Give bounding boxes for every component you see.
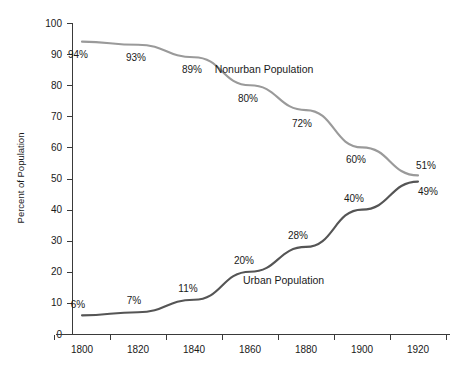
- data-label-nonurban-1920: 51%: [416, 160, 436, 171]
- x-tick-label-1860: 1860: [239, 344, 262, 355]
- data-label-nonurban-1900: 60%: [346, 154, 366, 165]
- x-tick-label-1840: 1840: [183, 344, 206, 355]
- data-label-urban-1920: 49%: [418, 186, 438, 197]
- y-tick-label-10: 10: [51, 297, 63, 308]
- x-axis-tick-labels: 1800182018401860188019001920: [71, 344, 430, 355]
- y-axis: 0102030405060708090100 Percent of Popula…: [15, 18, 73, 340]
- y-axis-tick-labels: 0102030405060708090100: [45, 18, 62, 340]
- data-label-nonurban-1800: 94%: [68, 49, 88, 60]
- x-tick-label-1800: 1800: [71, 344, 94, 355]
- data-label-nonurban-1820: 93%: [126, 52, 146, 63]
- data-label-urban-1880: 28%: [288, 230, 308, 241]
- y-tick-label-70: 70: [51, 111, 63, 122]
- population-line-chart: 0102030405060708090100 Percent of Popula…: [0, 0, 470, 379]
- x-tick-label-1880: 1880: [295, 344, 318, 355]
- x-axis: 1800182018401860188019001920: [54, 335, 450, 356]
- y-tick-label-20: 20: [51, 266, 63, 277]
- x-tick-label-1900: 1900: [351, 344, 374, 355]
- y-tick-label-30: 30: [51, 235, 63, 246]
- y-tick-label-60: 60: [51, 142, 63, 153]
- data-label-urban-1860: 20%: [234, 255, 254, 266]
- series-annotation-nonurban: Nonurban Population: [215, 63, 314, 75]
- data-label-urban-1800: 6%: [71, 299, 86, 310]
- x-tick-label-1920: 1920: [407, 344, 430, 355]
- x-axis-ticks: [54, 335, 446, 341]
- series-annotation-urban: Urban Population: [243, 274, 324, 286]
- y-tick-label-50: 50: [51, 173, 63, 184]
- y-tick-label-80: 80: [51, 80, 63, 91]
- y-tick-label-100: 100: [45, 18, 62, 29]
- data-label-nonurban-1860: 80%: [238, 93, 258, 104]
- y-axis-title: Percent of Population: [15, 133, 26, 224]
- data-label-urban-1840: 11%: [178, 283, 197, 294]
- x-tick-label-1820: 1820: [127, 344, 150, 355]
- data-label-urban-1820: 7%: [127, 295, 142, 306]
- y-tick-label-90: 90: [51, 49, 63, 60]
- data-label-nonurban-1880: 72%: [292, 118, 312, 129]
- chart-container: 0102030405060708090100 Percent of Popula…: [0, 0, 470, 379]
- data-label-nonurban-1840: 89%: [182, 64, 202, 75]
- data-label-urban-1900: 40%: [344, 193, 364, 204]
- y-axis-ticks: [67, 24, 73, 335]
- series-annotations: Nonurban PopulationUrban Population: [215, 63, 325, 286]
- y-tick-label-40: 40: [51, 204, 63, 215]
